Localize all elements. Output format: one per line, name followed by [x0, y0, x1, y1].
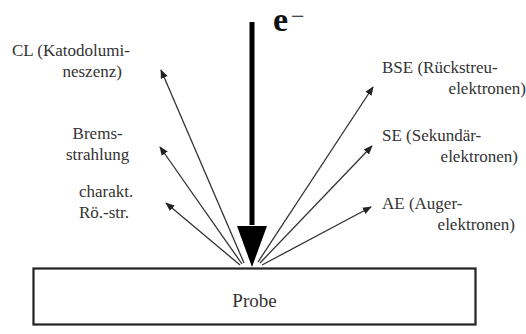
label-bse: BSE (Rückstreu- elektronen)	[382, 57, 526, 99]
label-cl-line1: CL (Katodolumi-	[12, 40, 130, 61]
label-cl: CL (Katodolumi- neszenz)	[12, 40, 130, 82]
electron-symbol: e	[273, 1, 288, 38]
electron-charge: −	[291, 0, 305, 36]
label-characteristic-line2: Rö.-str.	[79, 202, 133, 223]
label-bremsstrahlung-line2: strahlung	[66, 144, 129, 165]
arrow-characteristic-xray	[166, 203, 240, 265]
electron-label: e−	[273, 0, 288, 40]
label-se: SE (Sekundär- elektronen)	[382, 125, 518, 167]
label-bremsstrahlung-line1: Brems-	[66, 123, 129, 144]
label-bse-line2: elektronen)	[382, 78, 526, 99]
label-bse-line1: BSE (Rückstreu-	[382, 57, 526, 78]
label-se-line2: elektronen)	[382, 146, 518, 167]
label-characteristic-line1: charakt.	[79, 181, 133, 202]
label-se-line1: SE (Sekundär-	[382, 125, 518, 146]
label-bremsstrahlung: Brems- strahlung	[66, 123, 129, 165]
arrow-bse	[258, 87, 373, 262]
label-ae: AE (Auger- elektronen)	[382, 193, 515, 235]
label-characteristic-xray: charakt. Rö.-str.	[79, 181, 133, 223]
arrow-se	[260, 146, 372, 263]
label-ae-line2: elektronen)	[382, 214, 515, 235]
label-cl-line2: neszenz)	[12, 61, 122, 82]
label-ae-line1: AE (Auger-	[382, 193, 515, 214]
arrow-ae	[262, 207, 371, 265]
incident-beam-arrow	[237, 22, 267, 267]
sample-label: Probe	[33, 268, 476, 325]
